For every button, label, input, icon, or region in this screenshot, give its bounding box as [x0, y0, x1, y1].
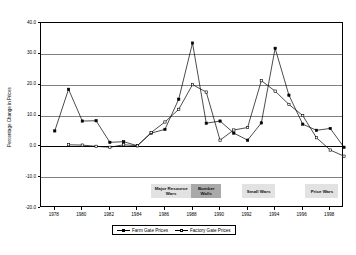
- x-axis-tick-label: 1990: [205, 212, 233, 217]
- y-axis-tick-label: 0.0: [6, 143, 36, 148]
- annotation-price-wars: Price Wars: [305, 184, 338, 198]
- filled-square-marker-icon: [117, 228, 130, 233]
- data-point-marker: [109, 146, 111, 148]
- series-line-farm-gate-prices: [55, 43, 344, 147]
- data-point-marker: [260, 122, 262, 124]
- data-point-marker: [315, 129, 317, 131]
- data-point-marker: [95, 120, 97, 122]
- data-point-marker: [246, 126, 248, 128]
- x-axis-tick-mark: [164, 207, 165, 210]
- data-point-marker: [109, 141, 111, 143]
- data-point-marker: [81, 120, 83, 122]
- open-square-marker-icon: [175, 228, 188, 233]
- data-point-marker: [288, 103, 290, 105]
- data-point-marker: [95, 145, 97, 147]
- data-point-marker: [150, 131, 152, 133]
- annotation-bomber-walls: Bomber Walls: [191, 184, 221, 198]
- data-point-marker: [343, 155, 345, 157]
- y-axis-tick-mark: [38, 145, 41, 146]
- y-axis-tick-label: 20.0: [6, 81, 36, 86]
- data-point-marker: [136, 145, 138, 147]
- data-point-marker: [288, 94, 290, 96]
- data-point-marker: [122, 144, 124, 146]
- legend-item-farm-gate-prices: Farm Gate Prices: [117, 228, 168, 233]
- data-point-marker: [54, 130, 56, 132]
- data-point-marker: [274, 47, 276, 49]
- y-axis-tick-label: -10.0: [6, 174, 36, 179]
- y-axis-tick-label: 10.0: [6, 112, 36, 117]
- y-axis-tick-mark: [38, 53, 41, 54]
- x-axis-tick-label: 1978: [40, 212, 68, 217]
- data-point-marker: [178, 98, 180, 100]
- data-point-marker: [219, 120, 221, 122]
- x-axis-tick-label: 1998: [315, 212, 343, 217]
- y-axis-tick-mark: [38, 176, 41, 177]
- data-point-marker: [205, 91, 207, 93]
- data-point-marker: [343, 146, 345, 148]
- x-axis-tick-label: 1994: [260, 212, 288, 217]
- data-point-marker: [274, 90, 276, 92]
- data-point-marker: [164, 128, 166, 130]
- data-point-marker: [315, 137, 317, 139]
- x-axis-tick-label: 1996: [288, 212, 316, 217]
- y-axis-tick-mark: [38, 207, 41, 208]
- x-axis-tick-mark: [109, 207, 110, 210]
- data-point-marker: [67, 144, 69, 146]
- x-axis-tick-label: 1982: [95, 212, 123, 217]
- chart-container: Percentage Change in Prices Major Resour…: [0, 0, 356, 255]
- x-axis-tick-mark: [274, 207, 275, 210]
- chart-legend: Farm Gate Prices Factory Gate Prices: [112, 225, 236, 235]
- data-point-marker: [178, 108, 180, 110]
- x-axis-tick-mark: [81, 207, 82, 210]
- data-point-marker: [260, 80, 262, 82]
- data-point-marker: [302, 114, 304, 116]
- annotation-small-wars: Small Wars: [242, 184, 275, 198]
- y-axis-tick-mark: [38, 84, 41, 85]
- x-axis-tick-label: 1986: [150, 212, 178, 217]
- data-point-marker: [164, 121, 166, 123]
- data-point-marker: [191, 42, 193, 44]
- x-axis-tick-mark: [54, 207, 55, 210]
- legend-item-factory-gate-prices: Factory Gate Prices: [175, 228, 231, 233]
- data-point-marker: [219, 139, 221, 141]
- data-point-marker: [329, 127, 331, 129]
- y-axis-tick-label: 40.0: [6, 20, 36, 25]
- x-axis-tick-mark: [136, 207, 137, 210]
- data-point-marker: [205, 122, 207, 124]
- data-point-marker: [246, 139, 248, 141]
- y-axis-tick-label: 30.0: [6, 50, 36, 55]
- annotation-major-resource-wars: Major Resource Wars: [151, 184, 191, 198]
- legend-label-factory-gate-prices: Factory Gate Prices: [190, 228, 231, 233]
- x-axis-tick-mark: [302, 207, 303, 210]
- series-layer: [41, 23, 344, 208]
- x-axis-tick-mark: [247, 207, 248, 210]
- plot-area: Major Resource WarsBomber WallsSmall War…: [40, 22, 343, 207]
- x-axis-tick-label: 1988: [178, 212, 206, 217]
- data-point-marker: [302, 123, 304, 125]
- data-point-marker: [191, 84, 193, 86]
- x-axis-tick-label: 1984: [122, 212, 150, 217]
- x-axis-tick-mark: [219, 207, 220, 210]
- y-axis-tick-mark: [38, 115, 41, 116]
- x-axis-tick-mark: [192, 207, 193, 210]
- data-point-marker: [329, 149, 331, 151]
- data-point-marker: [233, 132, 235, 134]
- y-axis-tick-mark: [38, 22, 41, 23]
- x-axis-tick-label: 1992: [233, 212, 261, 217]
- data-point-marker: [81, 144, 83, 146]
- data-point-marker: [67, 88, 69, 90]
- x-axis-tick-mark: [329, 207, 330, 210]
- y-axis-tick-label: -20.0: [6, 205, 36, 210]
- data-point-marker: [233, 129, 235, 131]
- x-axis-tick-label: 1980: [67, 212, 95, 217]
- data-point-marker: [122, 141, 124, 143]
- legend-label-farm-gate-prices: Farm Gate Prices: [132, 228, 168, 233]
